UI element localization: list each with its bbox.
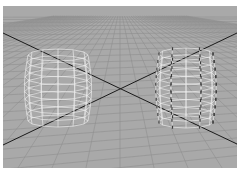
vertex-marker — [212, 121, 213, 124]
vertex-marker — [216, 90, 217, 93]
vertex-marker — [170, 83, 171, 86]
vertex-marker — [200, 76, 201, 79]
vertex-marker — [199, 58, 200, 61]
vertex-marker — [156, 105, 157, 108]
vertex-marker — [171, 99, 172, 102]
vertex-marker — [200, 68, 201, 71]
vertex-marker — [156, 75, 157, 78]
vertex-marker — [199, 107, 200, 110]
vertex-marker — [199, 47, 200, 50]
vertex-marker — [172, 47, 173, 50]
vertex-marker — [200, 61, 201, 64]
vertex-marker — [171, 107, 172, 110]
vertex-marker — [171, 54, 172, 57]
barrel-left-wireframe[interactable] — [24, 49, 91, 127]
vertex-marker — [172, 126, 173, 129]
barrel-right-wireframe[interactable] — [155, 47, 217, 128]
wire-column — [24, 55, 28, 121]
vertex-marker — [199, 126, 200, 129]
vertex-marker — [199, 66, 200, 69]
vertex-marker — [216, 83, 217, 86]
vertex-marker — [214, 60, 215, 63]
vertex-marker — [200, 83, 201, 86]
vertex-marker — [212, 53, 213, 56]
scene-canvas[interactable] — [3, 6, 237, 168]
vertex-marker — [170, 105, 171, 108]
vertex-marker — [157, 113, 158, 116]
vertex-marker — [170, 76, 171, 79]
vertex-marker — [158, 121, 159, 124]
vertex-marker — [200, 112, 201, 115]
vertex-marker — [170, 68, 171, 71]
vertex-marker — [214, 113, 215, 116]
vertex-marker — [200, 105, 201, 108]
3d-viewport[interactable] — [3, 6, 237, 168]
vertex-marker — [200, 91, 201, 94]
vertex-marker — [215, 98, 216, 101]
vertex-marker — [155, 90, 156, 93]
vertex-marker — [214, 105, 215, 108]
vertex-marker — [172, 115, 173, 118]
vertex-marker — [214, 68, 215, 71]
vertex-marker — [158, 53, 159, 56]
vertex-marker — [199, 115, 200, 118]
vertex-marker — [155, 83, 156, 86]
vertex-marker — [171, 112, 172, 115]
vertex-marker — [200, 99, 201, 102]
vertex-marker — [157, 60, 158, 63]
vertex-marker — [171, 66, 172, 69]
vertex-marker — [172, 58, 173, 61]
vertex-marker — [215, 75, 216, 78]
ground-grid — [3, 16, 237, 168]
vertex-marker — [170, 91, 171, 94]
vertex-marker — [199, 54, 200, 57]
wire-column — [88, 55, 92, 121]
vertex-marker — [199, 119, 200, 122]
vertex-marker — [156, 98, 157, 101]
vertex-marker — [171, 61, 172, 64]
vertex-marker — [156, 68, 157, 71]
wire-column — [156, 54, 159, 122]
vertex-marker — [171, 119, 172, 122]
